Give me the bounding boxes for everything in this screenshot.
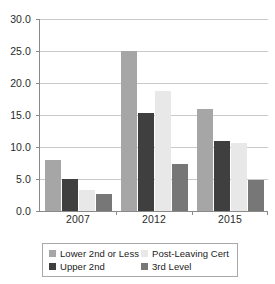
legend-item[interactable]: Lower 2nd or Less — [49, 248, 141, 259]
y-axis: 0.05.010.015.020.025.030.0 — [0, 0, 34, 232]
bar — [155, 91, 171, 211]
legend-swatch-icon — [141, 250, 148, 257]
legend-item[interactable]: Post-Leaving Cert — [141, 248, 233, 259]
bar-group — [192, 19, 268, 211]
bar-groups — [40, 19, 268, 211]
bar — [172, 164, 188, 211]
chart-legend: Lower 2nd or LessPost-Leaving CertUpper … — [42, 243, 238, 277]
legend-label: Upper 2nd — [60, 261, 105, 272]
legend-label: 3rd Level — [152, 261, 192, 272]
y-tick-label: 20.0 — [10, 77, 31, 89]
gridline — [40, 211, 268, 212]
legend-swatch-icon — [49, 250, 56, 257]
y-tick-label: 10.0 — [10, 141, 31, 153]
legend-label: Post-Leaving Cert — [152, 248, 229, 259]
bar — [62, 179, 78, 211]
x-axis-label: 2007 — [40, 213, 116, 225]
x-axis-labels: 200720122015 — [40, 213, 268, 225]
legend-label: Lower 2nd or Less — [60, 248, 139, 259]
bar — [248, 180, 264, 211]
legend-item[interactable]: 3rd Level — [141, 261, 233, 272]
bar — [121, 51, 137, 211]
legend-swatch-icon — [49, 263, 56, 270]
y-tick-label: 25.0 — [10, 45, 31, 57]
bar-group — [40, 19, 116, 211]
bar — [96, 194, 112, 211]
plot-area — [40, 19, 268, 211]
bar — [197, 109, 213, 211]
bar — [79, 190, 95, 211]
x-axis-label: 2012 — [116, 213, 192, 225]
legend-item[interactable]: Upper 2nd — [49, 261, 141, 272]
legend-swatch-icon — [141, 263, 148, 270]
bar-chart: 0.05.010.015.020.025.030.0 200720122015 … — [0, 0, 275, 284]
bar-group — [116, 19, 192, 211]
y-tick-mark — [36, 211, 40, 212]
y-tick-label: 0.0 — [16, 205, 31, 217]
y-tick-label: 30.0 — [10, 13, 31, 25]
x-axis-label: 2015 — [192, 213, 268, 225]
bar — [231, 143, 247, 211]
plot-wrapper: 0.05.010.015.020.025.030.0 200720122015 — [0, 0, 275, 232]
bar — [45, 160, 61, 211]
bar — [138, 113, 154, 211]
bar — [214, 141, 230, 211]
y-tick-label: 5.0 — [16, 173, 31, 185]
y-tick-label: 15.0 — [10, 109, 31, 121]
